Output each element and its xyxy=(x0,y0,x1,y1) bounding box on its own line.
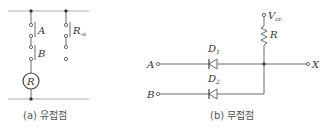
contact-b-terminal xyxy=(29,57,32,60)
relay-contact-terminal xyxy=(64,34,67,37)
vcc-terminal xyxy=(262,13,265,16)
contact-a-label: A xyxy=(37,25,45,36)
relay-contact-terminal xyxy=(64,23,67,26)
contact-circuit xyxy=(8,10,89,101)
input-b-label: B xyxy=(146,89,154,100)
diode-d2-icon xyxy=(209,89,217,99)
contact-a-terminal xyxy=(29,34,32,37)
resistor-label: R xyxy=(269,29,278,40)
diode-d1-label: D1 xyxy=(207,43,220,55)
relay-contact-terminal xyxy=(64,45,67,48)
contact-b-terminal xyxy=(29,45,32,48)
output-terminal xyxy=(306,62,309,65)
input-b-terminal xyxy=(156,92,159,95)
relay-contact-terminal xyxy=(64,57,67,60)
circuit-diagram: A B R-a R (a) 유접점 Vcc R D1 D2 A B X (b) … xyxy=(0,0,327,128)
vcc-label: Vcc xyxy=(268,10,283,22)
contact-b-label: B xyxy=(37,48,45,59)
relay-contact-label: R-a xyxy=(72,25,87,37)
diode-d1-icon xyxy=(209,59,217,69)
diode-circuit xyxy=(156,13,309,99)
input-a-terminal xyxy=(156,62,159,65)
resistor-icon xyxy=(261,26,267,45)
relay-coil-label: R xyxy=(26,76,35,87)
caption-a: (a) 유접점 xyxy=(23,110,67,121)
diode-d2-label: D2 xyxy=(207,73,220,85)
output-label: X xyxy=(311,59,320,70)
contact-a-terminal xyxy=(29,23,32,26)
input-a-label: A xyxy=(146,59,154,70)
caption-b: (b) 무접점 xyxy=(210,110,254,121)
